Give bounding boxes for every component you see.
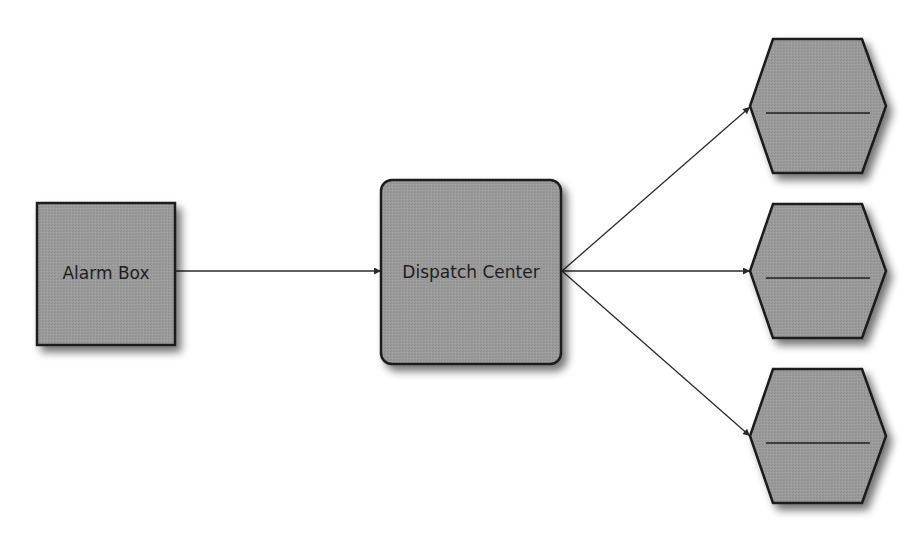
dispatch-center-label: Dispatch Center — [402, 262, 539, 282]
node-alarm-box[interactable]: Alarm Box — [37, 203, 175, 345]
alarm-box-label: Alarm Box — [62, 263, 149, 283]
edge-dispatch-to-unit-3 — [562, 271, 750, 436]
node-unit-3[interactable] — [750, 369, 886, 503]
diagram-canvas: Alarm Box Dispatch Center — [0, 0, 923, 539]
node-dispatch-center[interactable]: Dispatch Center — [381, 180, 561, 364]
unit-3-hexagon-shape — [750, 369, 886, 503]
node-unit-1[interactable] — [750, 39, 886, 173]
unit-1-hexagon-shape — [750, 39, 886, 173]
node-unit-2[interactable] — [750, 204, 886, 338]
edge-dispatch-to-unit-1 — [562, 107, 750, 271]
unit-2-hexagon-shape — [750, 204, 886, 338]
